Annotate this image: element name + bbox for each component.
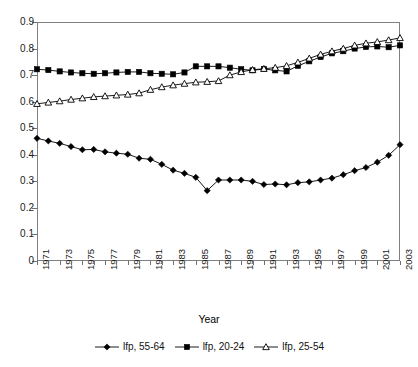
data-point [68,143,74,149]
data-point [227,65,232,70]
data-point [397,43,402,48]
data-point [148,71,153,76]
data-point [46,67,51,72]
data-point [79,147,85,153]
data-point [102,71,107,76]
legend-item-square[interactable]: lfp, 20-24 [174,341,245,353]
data-point [171,72,176,77]
data-point [34,67,39,72]
data-point [340,172,346,178]
legend-item-diamond[interactable]: lfp, 55-64 [94,341,165,353]
series-diamond [34,135,403,194]
data-point [306,55,313,61]
data-point [205,64,210,69]
series-triangle [34,35,404,107]
chart-legend: lfp, 55-64lfp, 20-24lfp, 25-54 [0,341,418,353]
data-point [159,71,164,76]
chart-container: 00.10.20.30.40.50.60.70.80.9 19711973197… [0,0,418,367]
series-line [37,38,400,104]
data-point [306,179,312,185]
data-point [249,178,255,184]
data-point [193,64,198,69]
data-point [57,69,62,74]
data-point [352,168,358,174]
legend-label: lfp, 55-64 [123,341,165,353]
data-point [147,156,153,162]
data-point [272,181,278,187]
series-square [34,43,402,77]
data-point [374,159,380,165]
data-point [136,155,142,161]
data-point [159,161,165,167]
data-point [215,78,222,84]
data-point [261,181,267,187]
data-point [114,70,119,75]
data-point [45,138,51,144]
x-axis-title: Year [0,313,418,325]
square-icon [174,341,200,353]
data-point [363,164,369,170]
data-point [227,177,233,183]
triangle-icon [253,341,279,353]
data-point [113,150,119,156]
data-point [295,180,301,186]
data-point [91,146,97,152]
data-point [102,149,108,155]
data-point [283,182,289,188]
legend-item-triangle[interactable]: lfp, 25-54 [253,341,324,353]
data-point [68,70,73,75]
data-point [397,35,404,41]
data-point [57,140,63,146]
data-series-layer [0,0,418,367]
data-point [91,71,96,76]
data-point [80,71,85,76]
data-point [317,177,323,183]
data-point [125,151,131,157]
data-point [238,177,244,183]
legend-label: lfp, 20-24 [203,341,245,353]
data-point [136,69,141,74]
data-point [295,59,302,65]
data-point [125,69,130,74]
data-point [329,175,335,181]
data-point [34,135,40,141]
diamond-icon [94,341,120,353]
data-point [182,70,187,75]
data-point [170,167,176,173]
data-point [386,45,391,50]
data-point [284,69,289,74]
data-point [216,64,221,69]
data-point [181,170,187,176]
legend-label: lfp, 25-54 [282,341,324,353]
